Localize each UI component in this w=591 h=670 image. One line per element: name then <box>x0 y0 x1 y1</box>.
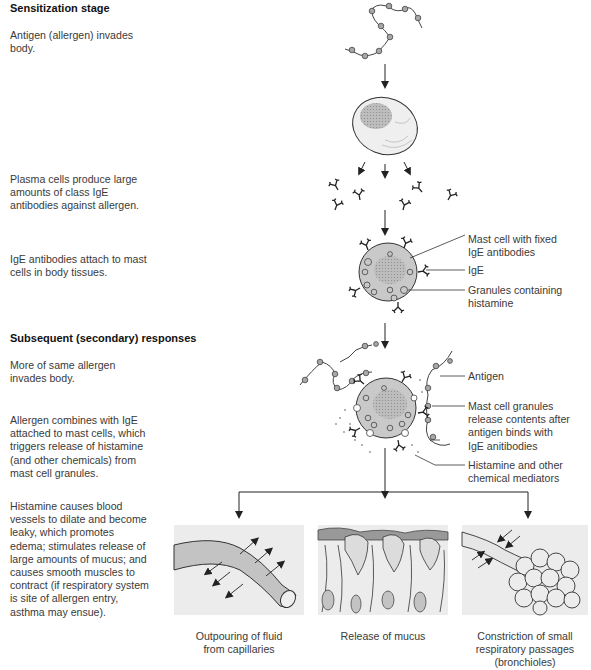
secondary-heading: Subsequent (secondary) responses <box>10 332 196 344</box>
panel-caption-bronchioles: Constriction of small respiratory passag… <box>462 630 588 670</box>
degranulating-mast-cell-icon <box>300 342 452 453</box>
sensitization-step-3: IgE antibodies attach to mast cells in b… <box>10 253 147 279</box>
secondary-step-1: More of same allergen invades body. <box>10 359 115 385</box>
plasma-cell-icon <box>344 88 426 165</box>
sensitization-heading: Sensitization stage <box>10 2 110 14</box>
bronchiole-panel <box>462 525 588 615</box>
secondary-step-3: Histamine causes blood vessels to dilate… <box>10 500 149 619</box>
sensitization-step-2: Plasma cells produce large amounts of cl… <box>10 173 139 213</box>
capillary-panel <box>174 525 304 615</box>
callout-granules: Granules containing histamine <box>468 284 562 310</box>
mucus-panel <box>318 525 448 615</box>
secondary-step-2: Allergen combines with IgE attached to m… <box>10 414 145 480</box>
callout-granules-release: Mast cell granules release contents afte… <box>468 400 570 453</box>
antigen-chain-icon <box>345 3 422 59</box>
callout-antigen: Antigen <box>468 370 504 383</box>
mast-cell-icon <box>347 236 429 313</box>
callout-ige: IgE <box>468 264 484 277</box>
sensitization-step-1: Antigen (allergen) invades body. <box>10 29 133 55</box>
panel-caption-mucus: Release of mucus <box>318 630 448 643</box>
callout-mast-cell-fixed: Mast cell with fixed IgE antibodies <box>468 233 557 259</box>
ige-antibodies-icon <box>327 177 458 212</box>
panel-caption-capillaries: Outpouring of fluid from capillaries <box>174 630 304 656</box>
callout-histamine: Histamine and other chemical mediators <box>468 459 563 485</box>
